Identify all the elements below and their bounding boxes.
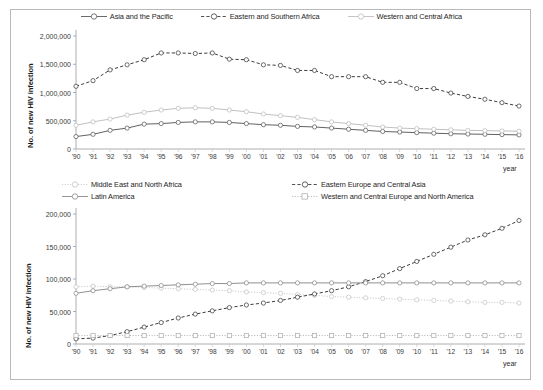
data-point-marker xyxy=(364,281,368,285)
legend-item[interactable]: Eastern Europe and Central Asia xyxy=(292,180,542,189)
data-point-marker xyxy=(381,281,385,285)
data-point-marker xyxy=(159,333,163,337)
data-point-marker xyxy=(125,113,129,117)
data-point-marker xyxy=(193,51,197,55)
data-point-marker xyxy=(125,285,129,289)
data-point-marker xyxy=(312,281,316,285)
data-point-marker xyxy=(244,333,248,337)
data-point-marker xyxy=(295,115,299,119)
data-point-marker xyxy=(398,130,402,134)
data-point-marker xyxy=(125,333,129,337)
data-point-marker xyxy=(449,91,453,95)
data-point-marker xyxy=(210,106,214,110)
legend-item[interactable]: Western and Central Europe and North Ame… xyxy=(292,192,542,201)
series-line xyxy=(74,106,521,134)
legend-item[interactable]: Latin America xyxy=(62,192,292,201)
data-point-marker xyxy=(74,333,78,337)
data-point-marker xyxy=(193,120,197,124)
data-point-marker xyxy=(142,325,146,329)
data-point-marker xyxy=(295,124,299,128)
legend-item[interactable]: Middle East and North Africa xyxy=(62,180,292,189)
data-point-marker xyxy=(466,128,470,132)
data-point-marker xyxy=(432,252,436,256)
data-point-marker xyxy=(125,63,129,67)
data-point-marker xyxy=(432,127,436,131)
data-point-marker xyxy=(364,296,368,300)
legend-item-label: Eastern Europe and Central Asia xyxy=(321,180,426,189)
data-point-marker xyxy=(432,131,436,135)
data-point-marker xyxy=(210,120,214,124)
data-point-marker xyxy=(312,68,316,72)
legend-item-label: Western and Central Europe and North Ame… xyxy=(321,192,473,201)
legend-item[interactable]: Eastern and Southern Africa xyxy=(201,12,320,21)
data-point-marker xyxy=(364,128,368,132)
series-line xyxy=(74,218,521,341)
data-point-marker xyxy=(364,75,368,79)
data-point-marker xyxy=(193,333,197,337)
data-point-marker xyxy=(500,300,504,304)
data-point-marker xyxy=(193,282,197,286)
legend-marker-icon xyxy=(292,192,318,201)
legend-marker-icon xyxy=(201,12,227,21)
data-point-marker xyxy=(466,94,470,98)
data-point-marker xyxy=(329,126,333,130)
data-point-marker xyxy=(381,129,385,133)
legend-item[interactable]: Asia and the Pacific xyxy=(81,12,173,21)
data-point-marker xyxy=(415,298,419,302)
data-point-marker xyxy=(347,281,351,285)
data-point-marker xyxy=(312,292,316,296)
data-point-marker xyxy=(176,51,180,55)
data-point-marker xyxy=(415,86,419,90)
data-point-marker xyxy=(261,63,265,67)
data-point-marker xyxy=(347,127,351,131)
data-point-marker xyxy=(193,312,197,316)
data-point-marker xyxy=(500,101,504,105)
data-point-marker xyxy=(381,333,385,337)
plot-area-top: No. of new HIV infection 0500,0001,000,0… xyxy=(14,30,529,177)
data-point-marker xyxy=(500,226,504,230)
data-point-marker xyxy=(91,79,95,83)
legend-marker-icon xyxy=(292,180,318,189)
data-point-marker xyxy=(500,281,504,285)
data-point-marker xyxy=(449,299,453,303)
data-point-marker xyxy=(227,333,231,337)
chart-panel-top: Asia and the PacificEastern and Southern… xyxy=(14,12,529,177)
data-point-marker xyxy=(432,281,436,285)
data-point-marker xyxy=(381,296,385,300)
data-point-marker xyxy=(415,259,419,263)
data-point-marker xyxy=(398,267,402,271)
data-point-marker xyxy=(159,108,163,112)
data-point-marker xyxy=(108,287,112,291)
data-point-marker xyxy=(210,333,214,337)
data-point-marker xyxy=(176,333,180,337)
data-point-marker xyxy=(244,281,248,285)
data-point-marker xyxy=(398,126,402,130)
legend-item-label: Asia and the Pacific xyxy=(110,12,173,21)
data-point-marker xyxy=(210,288,214,292)
legend-marker-icon xyxy=(348,12,374,21)
data-point-marker xyxy=(517,129,521,133)
data-point-marker xyxy=(483,300,487,304)
data-point-marker xyxy=(500,129,504,133)
legend-item-label: Latin America xyxy=(91,192,134,201)
data-point-marker xyxy=(449,245,453,249)
data-point-marker xyxy=(381,80,385,84)
data-point-marker xyxy=(91,284,95,288)
data-point-marker xyxy=(449,132,453,136)
data-point-marker xyxy=(295,295,299,299)
data-point-marker xyxy=(159,51,163,55)
data-point-marker xyxy=(108,117,112,121)
data-point-marker xyxy=(142,122,146,126)
data-point-marker xyxy=(398,281,402,285)
data-point-marker xyxy=(108,128,112,132)
data-point-marker xyxy=(295,281,299,285)
data-point-marker xyxy=(142,333,146,337)
data-point-marker xyxy=(398,80,402,84)
data-point-marker xyxy=(176,283,180,287)
data-point-marker xyxy=(210,281,214,285)
legend-item[interactable]: Western and Central Africa xyxy=(348,12,463,21)
data-point-marker xyxy=(278,63,282,67)
data-point-marker xyxy=(347,121,351,125)
legend-item-label: Western and Central Africa xyxy=(377,12,463,21)
data-point-marker xyxy=(415,333,419,337)
